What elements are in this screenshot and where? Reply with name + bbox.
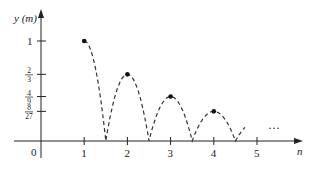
x-tick-label: 3 xyxy=(168,147,174,159)
data-points xyxy=(82,39,216,114)
y-axis-label: y (m) xyxy=(13,12,37,25)
bounce-path xyxy=(84,41,245,141)
x-axis-arrow-icon xyxy=(294,138,303,144)
x-tick-label: 2 xyxy=(124,147,129,159)
axes xyxy=(14,9,303,158)
y-tick-fraction: 827 xyxy=(25,103,33,121)
bouncing-ball-chart: 12345 12349827 y (m) n 0 … xyxy=(0,0,316,169)
x-ticks: 12345 xyxy=(81,137,260,159)
x-tick-label: 4 xyxy=(211,147,217,159)
data-point xyxy=(82,39,87,44)
y-tick-label: 1 xyxy=(27,35,33,47)
y-axis-arrow-icon xyxy=(38,9,44,18)
y-ticks: 12349827 xyxy=(25,35,46,121)
x-tick-label: 1 xyxy=(81,147,87,159)
data-point xyxy=(125,72,130,77)
data-point xyxy=(212,109,217,114)
svg-text:3: 3 xyxy=(27,75,31,84)
x-tick-label: 5 xyxy=(254,147,260,159)
svg-text:27: 27 xyxy=(25,112,33,121)
y-tick-fraction: 23 xyxy=(25,66,33,84)
origin-label: 0 xyxy=(31,146,37,158)
continuation-ellipsis: … xyxy=(268,118,280,132)
data-point xyxy=(168,94,173,99)
x-axis-label: n xyxy=(297,145,303,157)
